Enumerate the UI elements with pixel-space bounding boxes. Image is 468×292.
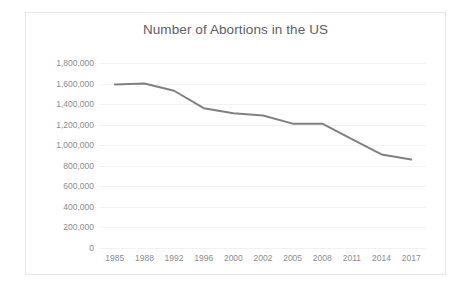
line-series-svg bbox=[100, 63, 426, 248]
y-axis-tick-label: 400,000 bbox=[26, 202, 94, 212]
x-axis-tick-label: 1996 bbox=[194, 253, 213, 263]
x-axis-tick-label: 2011 bbox=[343, 253, 361, 263]
y-axis-tick-label: 1,200,000 bbox=[26, 120, 94, 130]
y-axis-tick-label: 600,000 bbox=[26, 181, 94, 191]
gridline bbox=[100, 248, 426, 249]
plot-area bbox=[100, 63, 426, 248]
y-axis-tick-label: 1,000,000 bbox=[26, 140, 94, 150]
y-axis-tick-label: 800,000 bbox=[26, 161, 94, 171]
y-axis-tick-label: 200,000 bbox=[26, 222, 94, 232]
y-axis-tick-labels: 0200,000400,000600,000800,0001,000,0001,… bbox=[26, 63, 94, 248]
x-axis-tick-label: 2002 bbox=[254, 253, 273, 263]
y-axis-tick-label: 1,800,000 bbox=[26, 58, 94, 68]
chart-title: Number of Abortions in the US bbox=[26, 22, 445, 37]
x-axis-tick-label: 2005 bbox=[283, 253, 302, 263]
chart-container: Number of Abortions in the US 0200,00040… bbox=[25, 12, 446, 275]
y-axis-tick-label: 1,400,000 bbox=[26, 99, 94, 109]
x-axis-tick-labels: 1985198819921996200020022005200820112014… bbox=[100, 253, 426, 267]
x-axis-tick-label: 1992 bbox=[165, 253, 184, 263]
x-axis-tick-label: 2014 bbox=[372, 253, 391, 263]
x-axis-tick-label: 2000 bbox=[224, 253, 243, 263]
x-axis-tick-label: 2008 bbox=[313, 253, 332, 263]
line-series-path bbox=[115, 84, 411, 160]
x-axis-tick-label: 1985 bbox=[105, 253, 124, 263]
y-axis-tick-label: 0 bbox=[26, 243, 94, 253]
x-axis-tick-label: 1988 bbox=[135, 253, 154, 263]
x-axis-tick-label: 2017 bbox=[402, 253, 421, 263]
y-axis-tick-label: 1,600,000 bbox=[26, 79, 94, 89]
